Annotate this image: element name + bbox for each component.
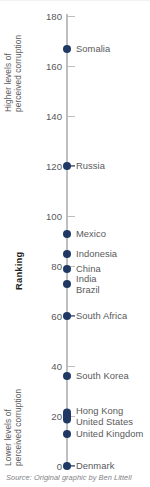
- country-label: South Korea: [76, 370, 129, 381]
- axis-tick: [66, 366, 75, 367]
- data-point-label: Somalia: [76, 43, 110, 54]
- data-point-marker[interactable]: [63, 280, 71, 288]
- axis-tick-label: 80: [0, 261, 62, 272]
- axis-tick-label: 20: [0, 411, 62, 422]
- data-point-marker[interactable]: [63, 162, 71, 170]
- axis-tick: [66, 66, 75, 67]
- source-caption: Source: Original graphic by Ben Littell: [6, 473, 132, 482]
- data-point-label: Mexico: [76, 228, 106, 239]
- data-point-marker[interactable]: [63, 250, 71, 258]
- country-label: Mexico: [76, 228, 106, 239]
- data-point-marker[interactable]: [63, 265, 71, 273]
- data-point-marker[interactable]: [63, 372, 71, 380]
- y-axis-line: [66, 14, 68, 468]
- axis-tick-label: 40: [0, 361, 62, 372]
- data-point-label: Denmark: [76, 460, 114, 471]
- data-point-label: South Africa: [76, 310, 127, 321]
- axis-tick-label: 0: [0, 461, 62, 472]
- data-point-marker[interactable]: [63, 462, 71, 470]
- country-label: United States: [76, 416, 133, 427]
- country-label: Denmark: [76, 460, 114, 471]
- country-label: United Kingdom: [76, 428, 143, 439]
- country-label: India: [76, 272, 100, 283]
- data-point-label: Russia: [76, 160, 105, 171]
- axis-tick-label: 140: [0, 111, 62, 122]
- country-label: Brazil: [76, 284, 100, 295]
- data-point-marker[interactable]: [63, 45, 71, 53]
- data-point-label: United Kingdom: [76, 428, 143, 439]
- axis-tick-label: 100: [0, 211, 62, 222]
- data-point-marker[interactable]: [63, 312, 71, 320]
- axis-tick: [66, 116, 75, 117]
- data-point-label: IndiaBrazil: [76, 272, 100, 295]
- axis-tick: [66, 216, 75, 217]
- axis-tick-label: 160: [0, 61, 62, 72]
- data-point-label: Hong KongUnited States: [76, 405, 133, 428]
- data-point-marker[interactable]: [63, 409, 71, 424]
- country-label: Hong Kong: [76, 405, 133, 416]
- top-divider: [0, 0, 150, 1]
- axis-tick: [66, 16, 75, 17]
- axis-tick-label: 120: [0, 161, 62, 172]
- data-point-marker[interactable]: [63, 430, 71, 438]
- corruption-ranking-chart: Higher levels of perceived corruption Lo…: [0, 0, 150, 487]
- country-label: Russia: [76, 160, 105, 171]
- country-label: Indonesia: [76, 248, 117, 259]
- data-point-marker[interactable]: [63, 230, 71, 238]
- country-label: Somalia: [76, 43, 110, 54]
- data-point-label: Indonesia: [76, 248, 117, 259]
- axis-tick-label: 60: [0, 311, 62, 322]
- country-label: South Africa: [76, 310, 127, 321]
- axis-tick-label: 180: [0, 11, 62, 22]
- data-point-label: South Korea: [76, 370, 129, 381]
